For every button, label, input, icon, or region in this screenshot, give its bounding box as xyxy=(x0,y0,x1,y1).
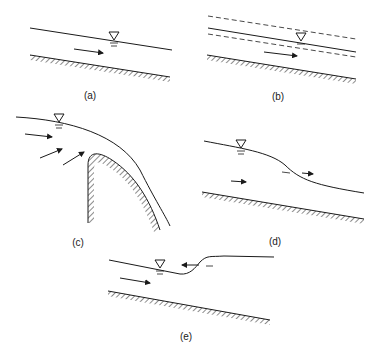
panel-e: (e) xyxy=(108,256,274,342)
flow-arrow-icon xyxy=(74,49,103,53)
bed-hatching xyxy=(202,192,364,224)
flow-arrow-icon xyxy=(25,134,52,137)
panel-label-a: (a) xyxy=(84,90,96,101)
water-surface-symbol-icon xyxy=(109,32,119,46)
spillway-hatching xyxy=(88,154,160,232)
lower-dashed-limit xyxy=(208,34,356,57)
flow-types-diagram: (a) (b) (c) xyxy=(0,0,380,351)
flow-arrow-icon xyxy=(40,149,62,158)
panel-label-d: (d) xyxy=(269,236,281,247)
bed-hatching xyxy=(30,55,170,82)
flow-dash xyxy=(282,172,290,173)
flow-arrow-icon xyxy=(63,152,84,165)
water-surface-symbol-icon xyxy=(54,114,64,128)
panel-label-c: (c) xyxy=(72,237,84,248)
free-surface-line xyxy=(208,28,356,52)
upper-dashed-limit xyxy=(208,16,356,39)
water-surface-symbol-icon xyxy=(155,260,165,274)
free-surface-line xyxy=(30,28,172,50)
panel-label-b: (b) xyxy=(272,91,284,102)
free-surface-drop xyxy=(204,141,364,193)
flow-arrow-icon xyxy=(231,181,246,182)
flow-arrow-icon xyxy=(120,278,150,283)
flow-arrow-icon xyxy=(302,173,313,174)
panel-a: (a) xyxy=(30,28,172,101)
panel-d: (d) xyxy=(202,140,364,247)
bed-hatching xyxy=(108,291,270,325)
panel-b: (b) xyxy=(207,16,356,102)
flow-arrow-icon xyxy=(264,52,297,56)
panel-c: (c) xyxy=(16,114,170,248)
panel-label-e: (e) xyxy=(180,331,192,342)
bed-hatching xyxy=(207,55,356,84)
